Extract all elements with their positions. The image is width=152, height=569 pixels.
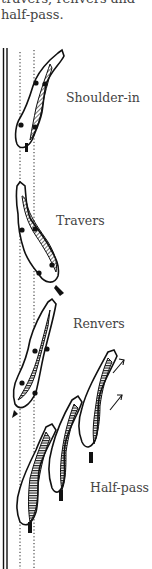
label-renvers: Renvers [73, 316, 125, 331]
label-travers: Travers [56, 213, 105, 228]
horse-half-pass-3 [79, 350, 117, 463]
horse-travers [16, 182, 64, 296]
label-shoulder-in: Shoulder-in [66, 90, 140, 105]
label-half-pass: Half-pass [90, 480, 149, 495]
horse-renvers [12, 299, 56, 418]
horse-shoulder-in [16, 50, 64, 152]
arena-wall [4, 48, 8, 569]
horse-half-pass-2 [49, 396, 82, 501]
